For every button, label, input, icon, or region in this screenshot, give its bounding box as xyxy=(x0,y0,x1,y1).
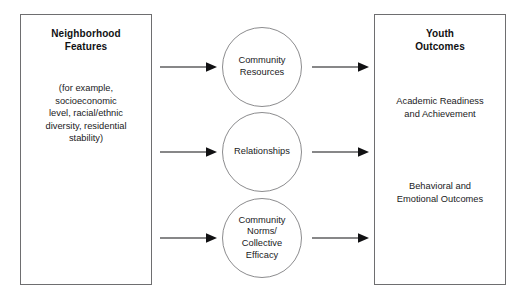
arrow-from-community-norms xyxy=(312,232,370,244)
mediator-community-norms: Community Norms/ Collective Efficacy xyxy=(222,198,302,278)
neighborhood-features-heading: Neighborhood Features xyxy=(21,28,151,53)
concept-diagram: Neighborhood Features (for example, soci… xyxy=(0,0,525,303)
neighborhood-features-examples: (for example, socioeconomic level, racia… xyxy=(25,82,147,145)
mediator-relationships-label: Relationships xyxy=(231,146,293,158)
neighborhood-features-box: Neighborhood Features (for example, soci… xyxy=(20,14,152,285)
outcome-behavioral-emotional: Behavioral and Emotional Outcomes xyxy=(379,180,501,205)
arrow-from-relationships xyxy=(312,146,370,158)
arrow-to-community-norms xyxy=(160,232,218,244)
mediator-relationships: Relationships xyxy=(222,112,302,192)
youth-outcomes-heading: Youth Outcomes xyxy=(375,28,505,53)
mediator-community-resources-label: Community Resources xyxy=(235,55,288,78)
arrow-to-relationships xyxy=(160,146,218,158)
outcome-academic-readiness: Academic Readiness and Achievement xyxy=(379,95,501,120)
youth-outcomes-box: Youth Outcomes Academic Readiness and Ac… xyxy=(374,14,506,285)
arrow-from-community-resources xyxy=(312,61,370,73)
arrow-to-community-resources xyxy=(160,61,218,73)
mediator-community-norms-label: Community Norms/ Collective Efficacy xyxy=(235,215,288,261)
mediator-community-resources: Community Resources xyxy=(222,27,302,107)
